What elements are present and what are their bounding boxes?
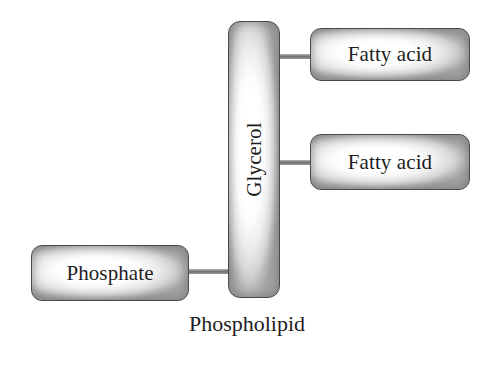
- node-phosphate: Phosphate: [31, 245, 189, 301]
- diagram-caption: Phospholipid: [0, 312, 494, 336]
- connector-glycerol-fatty-acid-2: [277, 160, 313, 165]
- node-fatty-acid-1-label: Fatty acid: [348, 44, 432, 65]
- node-glycerol-label: Glycerol: [244, 122, 265, 196]
- node-fatty-acid-2: Fatty acid: [310, 134, 470, 190]
- node-phosphate-label: Phosphate: [66, 263, 153, 284]
- node-glycerol: Glycerol: [228, 21, 280, 298]
- connector-glycerol-fatty-acid-1: [277, 54, 313, 59]
- node-fatty-acid-2-label: Fatty acid: [348, 152, 432, 173]
- phospholipid-diagram: Glycerol Fatty acid Fatty acid Phosphate…: [0, 0, 494, 366]
- connector-phosphate-glycerol: [186, 269, 232, 274]
- node-fatty-acid-1: Fatty acid: [310, 28, 470, 81]
